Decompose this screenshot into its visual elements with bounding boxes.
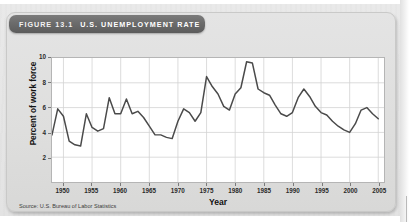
x-axis-tick-mark: [120, 183, 121, 186]
x-axis-tick-mark: [322, 183, 323, 186]
y-axis-tick-label: 2: [24, 154, 46, 161]
page-edge-line: [406, 196, 407, 222]
x-axis-tick-label: 1965: [133, 187, 165, 194]
y-axis-tick-label: 8: [24, 79, 46, 86]
y-axis-tick-mark: [48, 57, 51, 58]
plot-area: [51, 57, 385, 183]
x-axis-tick-label: 1970: [162, 187, 194, 194]
x-axis-tick-mark: [235, 183, 236, 186]
x-axis-tick-label: 1975: [190, 187, 222, 194]
unemployment-line-series: [52, 58, 384, 182]
x-axis-tick-label: 1980: [219, 187, 251, 194]
x-axis-tick-mark: [206, 183, 207, 186]
figure-title-tab: FIGURE 13.1 U.S. UNEMPLOYMENT RATE: [9, 15, 205, 33]
y-axis-tick-mark: [48, 82, 51, 83]
x-axis-tick-label: 1955: [75, 187, 107, 194]
x-axis-tick-mark: [149, 183, 150, 186]
x-axis-tick-label: 1995: [306, 187, 338, 194]
x-axis-tick-label: 1990: [277, 187, 309, 194]
x-axis-tick-mark: [350, 183, 351, 186]
figure-card: FIGURE 13.1 U.S. UNEMPLOYMENT RATE Perce…: [6, 12, 396, 212]
x-axis-tick-label: 2000: [334, 187, 366, 194]
y-axis-tick-label: 4: [24, 129, 46, 136]
y-axis-tick-mark: [48, 158, 51, 159]
y-axis-tick-mark: [48, 107, 51, 108]
x-axis-tick-label: 2005: [363, 187, 395, 194]
x-axis-tick-mark: [293, 183, 294, 186]
x-axis-tick-mark: [264, 183, 265, 186]
x-axis-tick-label: 1960: [104, 187, 136, 194]
y-axis-tick-mark: [48, 133, 51, 134]
x-axis-tick-mark: [63, 183, 64, 186]
x-axis-tick-mark: [178, 183, 179, 186]
figure-title: U.S. UNEMPLOYMENT RATE: [80, 20, 200, 29]
textbook-page: FIGURE 13.1 U.S. UNEMPLOYMENT RATE Perce…: [0, 0, 413, 222]
page-gutter-shadow: [400, 0, 413, 222]
x-axis-tick-mark: [379, 183, 380, 186]
y-axis-tick-label: 6: [24, 104, 46, 111]
x-axis-tick-label: 1950: [47, 187, 79, 194]
source-note: Source: U.S. Bureau of Labor Statistics: [19, 203, 116, 209]
y-axis-tick-label: 10: [24, 53, 46, 60]
x-axis-tick-label: 1985: [248, 187, 280, 194]
figure-number-label: FIGURE 13.1: [19, 20, 73, 29]
x-axis-tick-mark: [91, 183, 92, 186]
